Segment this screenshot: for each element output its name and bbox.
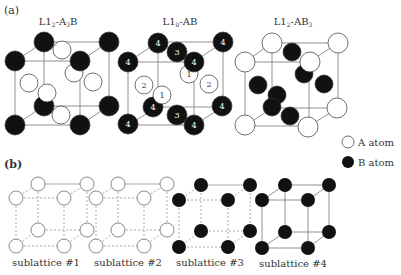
crystal-structure-diagram: (a) L12-A3B L10-AB L12-AB3 <box>0 0 401 275</box>
atoms-l12-ab3 <box>235 33 348 137</box>
svg-text:L10-AB: L10-AB <box>163 16 198 28</box>
sublattice-1: sublattice #1 <box>9 177 94 268</box>
site-number: 4 <box>125 58 130 67</box>
sublattice-label: sublattice #1 <box>12 257 80 268</box>
white-circle-icon <box>342 136 354 148</box>
black-circle-icon <box>342 156 354 168</box>
panel-b-label: (b) <box>4 158 22 171</box>
site-number: 4 <box>219 102 224 111</box>
site-number: 4 <box>125 120 130 129</box>
site-number: 1 <box>159 91 164 100</box>
sublattice-label: sublattice #2 <box>94 257 162 268</box>
site-number: 4 <box>220 38 225 47</box>
legend-a-atom: A atom <box>342 136 394 148</box>
legend: A atom B atom <box>342 136 395 168</box>
atoms-l12-a3b <box>5 32 119 135</box>
svg-text:L12-AB3: L12-AB3 <box>274 16 313 28</box>
atoms-l10-ab: 4 4 3 4 4 4 4 3 4 4 2 2 1 1 <box>118 32 233 135</box>
site-number: 2 <box>206 80 211 89</box>
sublattice-2: sublattice #2 <box>89 177 174 268</box>
svg-text:B atom: B atom <box>358 157 395 168</box>
title-l10-ab: L10-AB <box>163 16 198 28</box>
site-number: 3 <box>174 48 179 57</box>
svg-text:A atom: A atom <box>357 137 394 148</box>
site-number: 3 <box>174 111 179 120</box>
site-number: 2 <box>141 81 146 90</box>
site-number: 4 <box>150 103 155 112</box>
site-number: 1 <box>186 70 191 79</box>
title-l12-a3b: L12-A3B <box>39 16 78 28</box>
panel-a-label: (a) <box>4 4 19 17</box>
svg-text:L12-A3B: L12-A3B <box>39 16 78 28</box>
site-number: 4 <box>191 121 196 130</box>
site-number: 4 <box>155 39 160 48</box>
sublattice-label: sublattice #4 <box>259 258 327 269</box>
sublattice-4: sublattice #4 <box>255 178 336 269</box>
sublattice-label: sublattice #3 <box>176 257 244 268</box>
title-l12-ab3: L12-AB3 <box>274 16 313 28</box>
sublattice-3: sublattice #3 <box>172 178 257 268</box>
legend-b-atom: B atom <box>342 156 395 168</box>
site-number: 4 <box>191 58 196 67</box>
